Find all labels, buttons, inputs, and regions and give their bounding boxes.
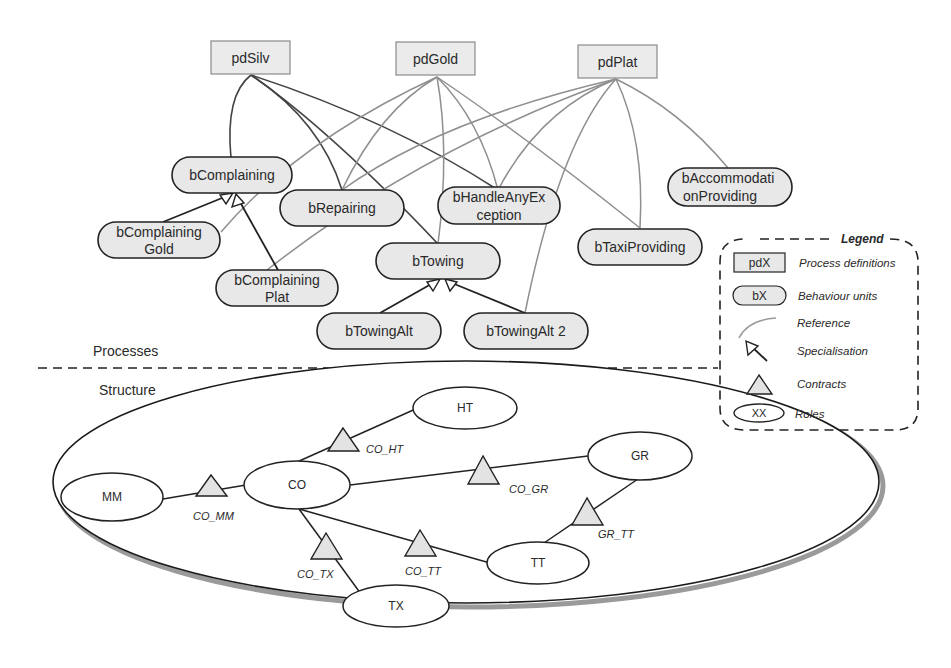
behaviour-unit-bAccommodationProviding[interactable]: bAccommodati onProviding (668, 168, 792, 206)
ref-pdPlat-bAccommodationProviding (616, 79, 728, 168)
behaviour-unit-bHandleAnyException[interactable]: bHandleAnyEx ception (438, 187, 560, 224)
spec-bComplainingPlat-bComplaining (240, 202, 278, 270)
behaviour-unit-bComplaining[interactable]: bComplaining (172, 157, 292, 193)
spec-arrowhead (427, 279, 440, 291)
contract-label: CO_TT (405, 565, 442, 577)
role-label: MM (102, 490, 122, 504)
spec-arrowhead (220, 193, 233, 204)
reference-line-icon (739, 318, 776, 338)
section-label-structure: Structure (99, 382, 156, 398)
legend-label: Contracts (797, 378, 846, 390)
role-HT[interactable]: HT (413, 387, 517, 429)
behaviour-unit-bComplainingGold[interactable]: bComplaining Gold (98, 222, 220, 258)
legend-symbol: XX (752, 407, 767, 419)
contract-label: GR_TT (598, 528, 635, 540)
role-label: TT (531, 556, 546, 570)
behaviour-unit-label: bTowingAlt 2 (486, 323, 566, 339)
section-label-processes: Processes (93, 343, 158, 359)
legend-symbol: bX (752, 289, 767, 303)
behaviour-unit-bTowingAlt2[interactable]: bTowingAlt 2 (464, 313, 588, 349)
process-definition-label: pdSilv (231, 50, 269, 66)
process-definition-label: pdGold (413, 51, 458, 67)
legend-item-contracts: Contracts (747, 375, 846, 394)
behaviour-unit-label: bComplaining (234, 272, 320, 288)
spec-bComplainingGold-bComplaining (163, 196, 227, 222)
legend-label: Process definitions (799, 257, 896, 269)
behaviour-unit-label: bTowing (412, 253, 463, 269)
behaviour-unit-label: onProviding (683, 188, 757, 204)
spec-bTowingAlt2-bTowing (452, 283, 525, 313)
contract-triangle-icon (747, 375, 772, 394)
role-GR[interactable]: GR (588, 432, 692, 480)
behaviour-unit-label: bRepairing (308, 200, 376, 216)
behaviour-unit-label: ception (476, 207, 521, 223)
behaviour-unit-bTowing[interactable]: bTowing (376, 243, 500, 279)
behaviour-unit-label: bComplaining (189, 167, 275, 183)
ref-pdGold-bRepairing (342, 77, 437, 190)
role-CO[interactable]: CO (244, 461, 350, 509)
legend-item-process-definitions: pdX Process definitions (734, 253, 896, 272)
legend-title: Legend (841, 232, 884, 246)
legend-symbol: pdX (749, 256, 770, 270)
legend-item-reference: Reference (739, 317, 850, 338)
behaviour-unit-bTowingAlt[interactable]: bTowingAlt (317, 313, 441, 349)
ref-pdSilv-bComplaining (230, 75, 251, 158)
role-TX[interactable]: TX (343, 585, 449, 627)
behaviour-unit-label: bAccommodati (682, 170, 775, 186)
role-label: HT (457, 401, 474, 415)
behaviour-unit-bRepairing[interactable]: bRepairing (280, 190, 404, 226)
process-definition-pdSilv[interactable]: pdSilv (211, 41, 290, 74)
process-definition-pdGold[interactable]: pdGold (396, 42, 475, 75)
process-definition-label: pdPlat (598, 54, 638, 70)
spec-bTowingAlt-bTowing (380, 283, 433, 313)
role-TT[interactable]: TT (487, 542, 589, 584)
legend-label: Reference (797, 317, 850, 329)
ref-pdPlat-bRepairing (342, 79, 616, 190)
spec-arrowhead (445, 279, 457, 291)
legend-label: Roles (795, 408, 825, 420)
behaviour-unit-label: bTaxiProviding (594, 239, 685, 255)
ref-pdPlat-bTaxiProviding (616, 79, 641, 228)
role-MM[interactable]: MM (61, 473, 163, 521)
behaviour-unit-label: bHandleAnyEx (453, 189, 546, 205)
specialisation-arrowhead-icon (746, 341, 758, 355)
behaviour-unit-bComplainingPlat[interactable]: bComplaining Plat (216, 270, 338, 306)
role-label: CO (288, 478, 306, 492)
legend-item-behaviour-units: bX Behaviour units (733, 286, 878, 305)
diagram-canvas: pdSilv pdGold pdPlat bComplaining bCompl… (0, 0, 951, 668)
legend-item-specialisation: Specialisation (746, 341, 868, 361)
role-label: TX (388, 599, 403, 613)
behaviour-unit-label: Plat (265, 289, 289, 305)
contract-label: CO_TX (297, 568, 334, 580)
legend-label: Specialisation (797, 345, 868, 357)
contract-label: CO_GR (509, 483, 548, 495)
behaviour-unit-label: bComplaining (116, 224, 202, 240)
role-label: GR (631, 449, 649, 463)
behaviour-unit-label: Gold (144, 241, 174, 257)
contract-label: CO_HT (366, 443, 405, 455)
contract-label: CO_MM (193, 510, 235, 522)
legend-label: Behaviour units (798, 290, 878, 302)
behaviour-unit-label: bTowingAlt (345, 323, 413, 339)
ref-pdPlat-bHandleAnyException (498, 79, 616, 190)
behaviour-unit-bTaxiProviding[interactable]: bTaxiProviding (578, 229, 702, 265)
process-definition-pdPlat[interactable]: pdPlat (578, 45, 657, 78)
